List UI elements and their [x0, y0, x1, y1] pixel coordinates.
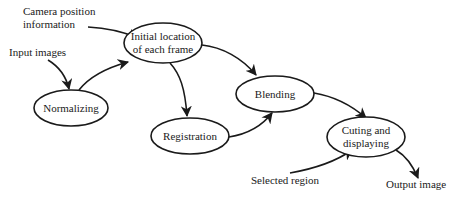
- node-blending: Blending: [236, 76, 314, 112]
- edge-registration-to-blending: [229, 113, 272, 137]
- edge-normalizing-to-initial: [79, 62, 128, 90]
- edge-initial-to-registration: [170, 63, 187, 116]
- camera-position-label-line1: Camera position: [23, 5, 96, 17]
- node-label: Normalizing: [43, 102, 99, 114]
- output-image-label: Output image: [386, 178, 446, 190]
- selected-region-label: Selected region: [251, 174, 320, 186]
- edge-blending-to-cutting: [314, 93, 366, 118]
- node-initial-location: Initial location of each frame: [124, 23, 202, 63]
- node-label-line1: Initial location: [131, 30, 196, 42]
- node-label: Registration: [163, 130, 217, 142]
- node-label-line2: displaying: [343, 137, 389, 149]
- node-label-line2: of each frame: [133, 43, 194, 55]
- node-label-line1: Cuting and: [342, 124, 391, 136]
- input-images-label: Input images: [9, 46, 66, 58]
- edge-initial-to-blending: [202, 45, 256, 75]
- camera-position-label-line2: information: [23, 18, 75, 30]
- node-registration: Registration: [151, 118, 229, 154]
- node-cutting-displaying: Cuting and displaying: [327, 117, 405, 157]
- flow-diagram: Initial location of each frame Normalizi…: [0, 0, 452, 197]
- node-label: Blending: [255, 88, 296, 100]
- edge-input-to-normalizing: [48, 60, 69, 89]
- node-normalizing: Normalizing: [34, 90, 108, 126]
- edge-cutting-to-output: [396, 150, 418, 178]
